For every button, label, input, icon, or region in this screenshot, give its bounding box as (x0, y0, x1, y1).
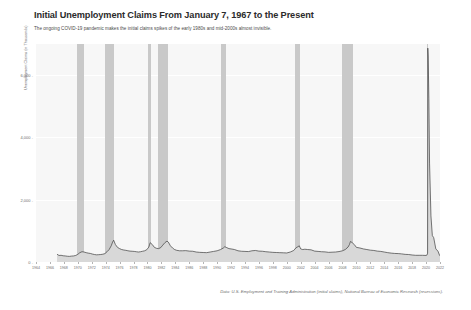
x-tick-label: 1988 (199, 266, 207, 270)
page-title: Initial Unemployment Claims From January… (34, 10, 314, 20)
x-tick-label: 2006 (325, 266, 333, 270)
y-tick-label: 2,000 - (21, 197, 36, 202)
x-tick-label: 1966 (46, 266, 54, 270)
x-tick-mark (106, 262, 107, 264)
x-tick-label: 1970 (74, 266, 82, 270)
x-tick-mark (384, 262, 385, 264)
x-tick-mark (301, 262, 302, 264)
x-tick-label: 1984 (171, 266, 179, 270)
x-tick-label: 1994 (241, 266, 249, 270)
x-tick-label: 2014 (380, 266, 388, 270)
x-tick-mark (259, 262, 260, 264)
x-tick-label: 1996 (255, 266, 263, 270)
x-tick-mark (342, 262, 343, 264)
x-tick-mark (64, 262, 65, 264)
chart-subtitle: The ongoing COVID-19 pandemic makes the … (34, 26, 271, 31)
plot-area: Unemployment Claims (in Thousands) 0 -2,… (36, 44, 440, 262)
x-tick-mark (92, 262, 93, 264)
x-tick-mark (412, 262, 413, 264)
x-tick-label: 2022 (436, 266, 444, 270)
x-tick-mark (329, 262, 330, 264)
x-tick-mark (189, 262, 190, 264)
x-tick-label: 1980 (143, 266, 151, 270)
x-tick-mark (134, 262, 135, 264)
x-tick-label: 2012 (366, 266, 374, 270)
x-tick-mark (50, 262, 51, 264)
source-note: Data: U.S. Employment and Training Admin… (220, 289, 443, 294)
y-tick-label: 4,000 - (21, 135, 36, 140)
x-tick-label: 2018 (408, 266, 416, 270)
x-tick-label: 2002 (297, 266, 305, 270)
x-tick-label: 1978 (130, 266, 138, 270)
x-tick-mark (36, 262, 37, 264)
series-initial-claims (36, 44, 440, 262)
x-tick-mark (147, 262, 148, 264)
x-tick-label: 1968 (60, 266, 68, 270)
x-tick-label: 2010 (352, 266, 360, 270)
x-tick-label: 2000 (283, 266, 291, 270)
x-tick-mark (175, 262, 176, 264)
x-tick-mark (78, 262, 79, 264)
x-tick-mark (315, 262, 316, 264)
x-tick-label: 1998 (269, 266, 277, 270)
x-tick-label: 2016 (394, 266, 402, 270)
x-tick-mark (203, 262, 204, 264)
x-tick-mark (440, 262, 441, 264)
x-tick-label: 1986 (185, 266, 193, 270)
x-tick-mark (426, 262, 427, 264)
x-tick-mark (217, 262, 218, 264)
x-tick-mark (161, 262, 162, 264)
x-tick-label: 1964 (32, 266, 40, 270)
x-tick-label: 1972 (88, 266, 96, 270)
x-tick-label: 2004 (311, 266, 319, 270)
x-tick-label: 1976 (116, 266, 124, 270)
x-tick-mark (245, 262, 246, 264)
x-tick-mark (398, 262, 399, 264)
x-tick-mark (273, 262, 274, 264)
x-tick-label: 2020 (422, 266, 430, 270)
x-tick-label: 1992 (227, 266, 235, 270)
x-tick-label: 1974 (102, 266, 110, 270)
x-tick-label: 2008 (338, 266, 346, 270)
x-tick-mark (120, 262, 121, 264)
x-tick-mark (356, 262, 357, 264)
x-tick-label: 1982 (157, 266, 165, 270)
y-tick-label: 6,000 - (21, 73, 36, 78)
chart-page: Initial Unemployment Claims From January… (0, 0, 471, 310)
x-axis-ticks: 1964196619681970197219741976197819801982… (36, 262, 440, 278)
x-tick-mark (287, 262, 288, 264)
x-tick-mark (231, 262, 232, 264)
x-tick-label: 1990 (213, 266, 221, 270)
x-tick-mark (370, 262, 371, 264)
y-tick-label: 0 - (28, 260, 36, 265)
